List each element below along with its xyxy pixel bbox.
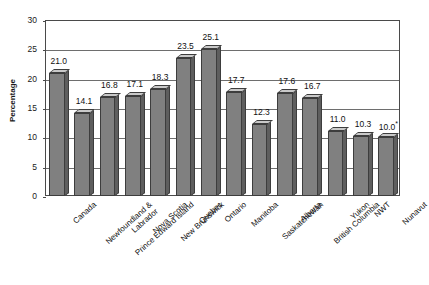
bar [125, 96, 141, 196]
bar [353, 136, 369, 196]
bar-value-label: 17.6 [279, 76, 296, 86]
bar [150, 89, 166, 196]
y-axis-tick-label: 20 [28, 74, 37, 84]
y-axis-tick-label: 10 [28, 132, 37, 142]
bar-front-face [277, 93, 293, 196]
bar-side-face [242, 89, 246, 196]
y-axis-tick-label: 25 [28, 44, 37, 54]
bar-side-face [217, 46, 221, 196]
bar-front-face [328, 131, 344, 196]
bar-value-label: 10.0* [379, 120, 398, 132]
y-axis-tick-label: 0 [32, 191, 37, 201]
bar-value-label: 25.1 [203, 32, 220, 42]
bar [328, 131, 344, 196]
y-axis-tick-labels: 051015202530 [0, 0, 44, 285]
x-axis-category-label: Nunavut [401, 200, 429, 227]
bar-value-label: 23.5 [177, 41, 194, 51]
bar-value-label: 18.3 [152, 72, 169, 82]
bar-front-face [49, 73, 65, 196]
bar-value-label: 12.3 [253, 107, 270, 117]
bar-side-face [90, 110, 94, 196]
bar [277, 93, 293, 196]
bar [226, 92, 242, 196]
bar-side-face [318, 95, 322, 196]
bar-side-face [267, 121, 271, 196]
bar-front-face [150, 89, 166, 196]
bar-value-label: 17.7 [228, 75, 245, 85]
bar [201, 49, 217, 196]
bar-front-face [302, 98, 318, 196]
bar-front-face [378, 137, 394, 196]
x-axis-category-label: Canada [71, 200, 98, 225]
bar-value-label: 14.1 [76, 96, 93, 106]
bar-front-face [201, 49, 217, 196]
bar [100, 97, 116, 196]
bar-front-face [353, 136, 369, 196]
bar-side-face [191, 55, 195, 196]
bar-side-face [369, 132, 373, 196]
bar-value-label: 17.1 [126, 79, 143, 89]
bar-side-face [141, 93, 145, 196]
bar [378, 137, 394, 196]
bar-side-face [343, 128, 347, 196]
bar-side-face [115, 94, 119, 196]
y-axis-tick-label: 30 [28, 15, 37, 25]
bar [74, 113, 90, 196]
bar-side-face [293, 90, 297, 196]
bar-value-label: 11.0 [330, 114, 346, 124]
y-axis-tick-label: 5 [32, 162, 37, 172]
bars-layer: 21.014.116.817.118.323.525.117.712.317.6… [45, 20, 400, 196]
bar [176, 58, 192, 196]
bar-front-face [100, 97, 116, 196]
bar-value-label: 21.0 [50, 56, 67, 66]
bar-side-face [166, 86, 170, 196]
bar-side-face [65, 70, 69, 196]
bar [49, 73, 65, 196]
bar-front-face [176, 58, 192, 196]
x-axis-category-labels: CanadaNewfoundland &LabradorPrince Edwar… [45, 198, 400, 285]
bar-value-label: 10.3 [355, 119, 372, 129]
bar-front-face [226, 92, 242, 196]
footnote-asterisk: * [395, 120, 398, 127]
bar-front-face [74, 113, 90, 196]
bar-front-face [252, 124, 268, 196]
x-axis-category-label: Manitoba [250, 200, 280, 229]
bar-value-label: 16.8 [101, 80, 118, 90]
bar-value-label: 16.7 [304, 81, 321, 91]
bar [252, 124, 268, 196]
y-axis-tick-label: 15 [28, 103, 37, 113]
bar [302, 98, 318, 196]
x-axis-category-label: Quebec [198, 200, 225, 225]
x-axis-category-label: Ontario [223, 200, 249, 224]
bar-side-face [394, 134, 398, 196]
x-axis-category-label: Alberta [298, 200, 323, 224]
bar-front-face [125, 96, 141, 196]
